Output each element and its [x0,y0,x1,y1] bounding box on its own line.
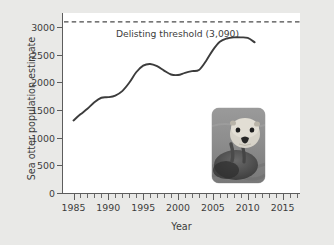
x-tick-minor [255,194,256,198]
sea-otter-photo [212,108,265,183]
x-tick-minor [206,194,207,198]
x-tick-major [283,194,284,200]
y-tick [57,110,63,111]
x-tick-minor [150,194,151,198]
y-tick-label: 2000 [31,77,55,88]
y-tick [57,27,63,28]
x-tick-minor [136,194,137,198]
x-tick-minor [220,194,221,198]
x-tick-minor [234,194,235,198]
x-tick-minor [122,194,123,198]
x-tick-label: 1985 [62,202,86,213]
x-tick-major [213,194,214,200]
x-tick-minor [290,194,291,198]
x-tick-major [178,194,179,200]
x-tick-label: 2000 [166,202,190,213]
y-tick [57,138,63,139]
x-tick-label: 2005 [201,202,225,213]
y-tick [57,165,63,166]
x-tick-minor [164,194,165,198]
y-tick [57,193,63,194]
y-tick-label: 1000 [31,132,55,143]
y-tick-label: 1500 [31,104,55,115]
x-tick-minor [157,194,158,198]
y-tick-label: 3000 [31,21,55,32]
x-tick-minor [171,194,172,198]
x-tick-minor [94,194,95,198]
x-tick-major [248,194,249,200]
y-tick-label: 0 [49,188,55,199]
x-tick-minor [129,194,130,198]
x-tick-minor [269,194,270,198]
x-tick-label: 2015 [271,202,295,213]
x-tick-label: 1990 [96,202,120,213]
x-tick-minor [241,194,242,198]
x-tick-label: 2010 [236,202,260,213]
x-tick-minor [185,194,186,198]
x-tick-major [108,194,109,200]
x-tick-label: 1995 [131,202,155,213]
x-tick-major [74,194,75,200]
x-tick-minor [87,194,88,198]
x-tick-minor [101,194,102,198]
delisting-threshold-label: Delisting threshold (3,090) [116,28,239,39]
x-tick-minor [192,194,193,198]
sea-otter-population-chart: Sea otter population estimate 0500100015… [0,0,334,245]
sea-otter-photo-svg [212,108,265,183]
x-tick-major [143,194,144,200]
x-tick-minor [80,194,81,198]
x-tick-minor [199,194,200,198]
y-tick-label: 2500 [31,49,55,60]
y-tick [57,82,63,83]
x-tick-minor [115,194,116,198]
y-tick-label: 500 [37,160,55,171]
x-axis-title: Year [63,221,300,232]
y-tick [57,55,63,56]
x-tick-minor [297,194,298,198]
x-tick-minor [276,194,277,198]
x-tick-minor [227,194,228,198]
x-tick-minor [262,194,263,198]
